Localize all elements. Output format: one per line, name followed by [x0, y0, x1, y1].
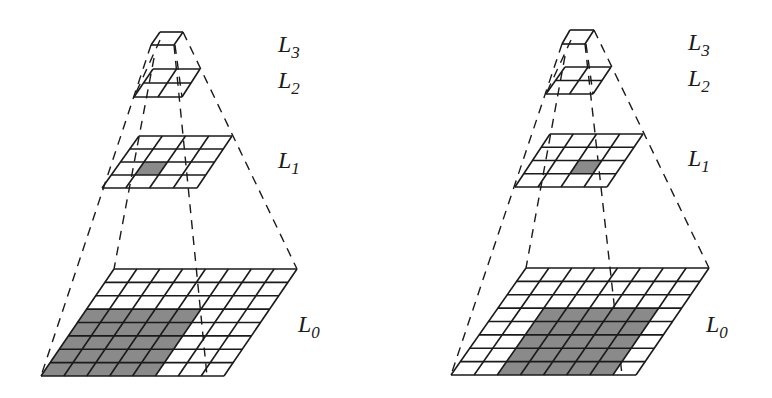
- level-label: L3: [688, 30, 710, 59]
- grid-level-l0: [41, 269, 297, 376]
- grid-col-line: [585, 30, 594, 44]
- grid-level-l2: [134, 69, 200, 97]
- level-label: L2: [278, 68, 300, 97]
- pyramid-diagram: [0, 0, 772, 398]
- grid-col-line: [562, 30, 570, 44]
- pyramid-right: [451, 30, 709, 375]
- pyramid-left: [41, 32, 297, 376]
- grid-level-l1: [102, 136, 232, 188]
- level-label: L0: [706, 312, 728, 341]
- level-label: L1: [688, 146, 710, 175]
- level-label: L1: [278, 148, 300, 177]
- level-label: L3: [278, 32, 300, 61]
- grid-level-l1: [515, 134, 643, 187]
- grid-level-l0: [451, 268, 709, 375]
- grid-level-l3: [151, 32, 183, 45]
- grid-level-l2: [546, 67, 611, 94]
- grid-col-line: [174, 32, 183, 45]
- level-label: L0: [298, 312, 320, 341]
- level-label: L2: [688, 66, 710, 95]
- grid-level-l3: [562, 30, 594, 44]
